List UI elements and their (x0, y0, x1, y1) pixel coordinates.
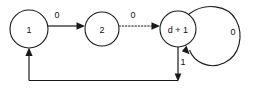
node-state-1[interactable]: 1 (10, 10, 48, 48)
edge-1-to-2: 0 (48, 10, 85, 30)
state-diagram-canvas: 1 0 0 0 1 2 d + (0, 0, 258, 93)
node-state-d-plus-1[interactable]: d + 1 (160, 11, 196, 47)
edge-d-plus-1-to-1: 1 (25, 47, 185, 82)
node-state-2-label: 2 (99, 25, 104, 35)
edge-2-to-d-plus-1-arrowhead (152, 22, 161, 29)
node-state-1-label: 1 (26, 25, 31, 35)
node-state-2[interactable]: 2 (85, 12, 119, 46)
edge-1-to-2-arrowhead (77, 22, 86, 29)
state-diagram: 1 0 0 0 1 2 d + (0, 0, 258, 93)
edge-label-1-to-2: 0 (54, 10, 59, 20)
node-state-d-plus-1-label: d + 1 (168, 25, 188, 35)
edge-label-d-plus-1-to-1: 1 (180, 57, 185, 67)
edge-d-plus-1-to-1-up-arrowhead (25, 48, 32, 57)
edge-label-self-loop: 0 (230, 27, 235, 37)
edge-2-to-d-plus-1: 0 (119, 10, 160, 30)
edge-label-2-to-d-plus-1: 0 (130, 10, 135, 20)
